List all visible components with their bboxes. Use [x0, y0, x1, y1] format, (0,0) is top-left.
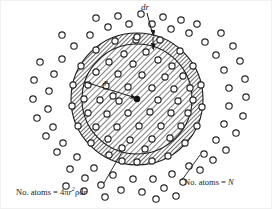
shell-count-prefix: No. atoms = 4	[16, 187, 64, 197]
sphere-atom-count-label: No. atoms = N	[184, 178, 234, 187]
figure-container: dr r No. atoms = 4πr2ρdr No. atoms = N	[0, 0, 272, 209]
sphere-count-prefix: No. atoms =	[184, 177, 228, 187]
dr-label: dr	[141, 3, 149, 12]
shell-atom-count-label: No. atoms = 4πr2ρdr	[16, 186, 87, 196]
radius-label: r	[104, 79, 108, 89]
shell-count-dr-r: r	[83, 187, 86, 197]
center-atom-dot	[134, 96, 140, 102]
sphere-count-value: N	[228, 177, 234, 187]
